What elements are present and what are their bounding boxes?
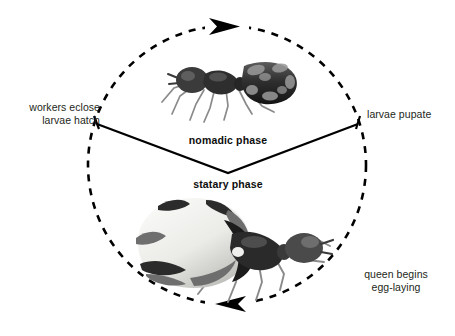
label-larvae-pupate-line1: larvae pupate <box>367 108 453 121</box>
label-queen-begins-line1: queen begins <box>341 268 451 281</box>
label-larvae-hatch-line2: larvae hatch <box>8 114 100 127</box>
label-workers-eclose-line1: workers eclose <box>8 101 100 114</box>
cycle-diagram: workers eclose larvae hatch larvae pupat… <box>0 0 455 336</box>
label-queen-egg-laying: queen begins egg-laying <box>341 268 451 293</box>
queen-ant-icon <box>128 190 338 308</box>
phase-label-statary: statary phase <box>148 178 308 190</box>
label-workers-eclose: workers eclose larvae hatch <box>8 101 100 126</box>
label-larvae-pupate: larvae pupate <box>367 108 453 121</box>
worker-ant-icon <box>152 52 300 130</box>
label-egg-laying-line2: egg-laying <box>341 281 451 294</box>
queen-head <box>285 233 323 263</box>
phase-divider-chevron <box>97 124 358 173</box>
nomadic-phase-ant-illustration <box>152 52 300 130</box>
statary-phase-queen-illustration <box>128 190 338 308</box>
phase-label-nomadic: nomadic phase <box>148 134 308 146</box>
